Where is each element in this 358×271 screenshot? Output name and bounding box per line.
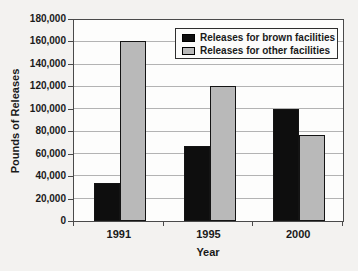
legend-item: Releases for other facilities — [182, 45, 337, 57]
y-tick-label: 60,000 — [16, 148, 66, 160]
y-axis-title: Pounds of Releases — [9, 69, 21, 174]
bar-2000-series-1 — [299, 135, 325, 221]
gridline-100000 — [74, 108, 343, 109]
y-tick-mark — [68, 19, 73, 20]
x-tick-mark — [73, 222, 74, 226]
y-tick-mark — [68, 41, 73, 42]
y-tick-mark — [68, 176, 73, 177]
y-tick-mark — [68, 199, 73, 200]
y-tick-label: 140,000 — [16, 58, 66, 70]
x-tick-label-1995: 1995 — [187, 228, 231, 241]
y-tick-label: 40,000 — [16, 170, 66, 182]
y-tick-mark — [68, 64, 73, 65]
legend-swatch-icon — [182, 34, 195, 42]
legend-label: Releases for other facilities — [200, 45, 330, 57]
bar-1991-series-0 — [94, 183, 120, 221]
y-tick-label: 20,000 — [16, 193, 66, 205]
bar-1995-series-1 — [210, 86, 236, 221]
y-tick-label: 120,000 — [16, 80, 66, 92]
x-tick-mark — [342, 222, 343, 226]
x-tick-label-2000: 2000 — [276, 228, 320, 241]
legend: Releases for brown facilitiesReleases fo… — [175, 28, 338, 59]
y-tick-label: 0 — [16, 215, 66, 227]
bar-1995-series-0 — [184, 146, 210, 221]
legend-item: Releases for brown facilities — [182, 32, 337, 44]
gridline-140000 — [74, 64, 343, 65]
bar-1991-series-1 — [120, 41, 146, 221]
bar-chart-figure: Releases for brown facilitiesReleases fo… — [0, 0, 358, 271]
y-tick-mark — [68, 86, 73, 87]
x-tick-mark — [163, 222, 164, 226]
x-axis-title: Year — [196, 246, 219, 258]
y-tick-label: 160,000 — [16, 35, 66, 47]
gridline-120000 — [74, 86, 343, 87]
y-tick-label: 80,000 — [16, 125, 66, 137]
x-tick-mark — [252, 222, 253, 226]
legend-swatch-icon — [182, 47, 195, 55]
bar-2000-series-0 — [273, 109, 299, 221]
y-tick-mark — [68, 131, 73, 132]
y-tick-label: 100,000 — [16, 103, 66, 115]
y-tick-mark — [68, 154, 73, 155]
y-tick-mark — [68, 109, 73, 110]
gridline-80000 — [74, 131, 343, 132]
plot-area: Releases for brown facilitiesReleases fo… — [73, 19, 344, 222]
x-tick-label-1991: 1991 — [97, 228, 141, 241]
y-tick-label: 180,000 — [16, 13, 66, 25]
legend-label: Releases for brown facilities — [200, 32, 335, 44]
